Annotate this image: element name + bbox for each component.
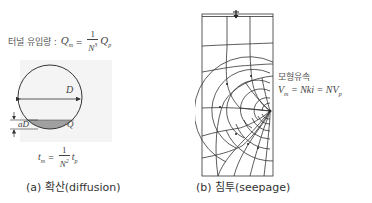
flow-arrow [250,75,252,77]
flow-arrow [226,83,228,85]
caption-diffusion: (a) 확산(diffusion) [26,178,120,194]
diagram-background [20,60,112,142]
inflow-rhs: Qp [100,34,111,48]
inflow-label: 터널 유입량 : [8,35,57,48]
flow-net-boundary [202,14,273,176]
flow-arrow [235,133,237,135]
time-formula: tm = 1 N2 tp [38,146,78,169]
flow-net-diagram [195,8,280,183]
time-rhs: tp [72,151,78,164]
inflow-formula: 터널 유입량 : Qm = 1 N3 Qp [8,30,111,53]
equals-sign: = [76,36,82,48]
tunnel-section-diagram [0,55,130,145]
model-velocity-block: 모형유속 Vm = Nki = NVp [278,70,342,97]
model-velocity-title: 모형유속 [278,70,342,83]
time-fraction: 1 N2 [59,146,70,169]
depth-label: aD [18,119,29,129]
inflow-lhs: Qm [61,34,73,48]
time-lhs: tm [38,151,45,164]
flow-label: Q [67,119,74,129]
equals-sign: = [48,152,54,163]
sink-point [269,110,272,113]
diameter-label: D [66,84,73,95]
flow-arrow [247,143,249,145]
flow-arrow [219,106,221,108]
caption-seepage: (b) 침투(seepage) [196,178,290,194]
flow-arrow [257,147,259,149]
model-velocity-formula: Vm = Nki = NVp [278,84,342,97]
inflow-fraction: 1 N3 [87,30,98,53]
